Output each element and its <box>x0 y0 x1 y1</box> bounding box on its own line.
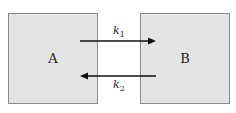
rate-constant-k1: k1 <box>113 24 125 39</box>
reaction-arrows <box>0 0 236 113</box>
rate-constant-k2: k2 <box>113 78 125 93</box>
